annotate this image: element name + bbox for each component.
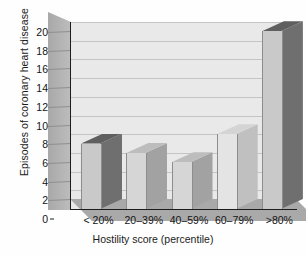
wall-gridline bbox=[48, 199, 71, 201]
bar-side-face bbox=[281, 21, 303, 209]
wall-gridline bbox=[48, 106, 71, 108]
y-tick-label: 10 bbox=[36, 120, 48, 132]
y-axis-line bbox=[70, 22, 71, 210]
bar-2 bbox=[126, 143, 167, 209]
y-tick-label: 14 bbox=[36, 82, 48, 94]
coronary-heart-disease-bar-chart: Episodes of coronary heart disease 02468… bbox=[0, 0, 306, 256]
y-tick-label: 18 bbox=[36, 45, 48, 57]
left-wall-3d bbox=[48, 12, 71, 210]
x-tick-label-2: 20–39% bbox=[125, 214, 164, 226]
bar-side-face bbox=[191, 152, 213, 209]
bar-front-face bbox=[126, 153, 147, 209]
bar-3 bbox=[172, 152, 213, 209]
wall-gridline bbox=[48, 143, 71, 145]
bar-front-face bbox=[172, 162, 193, 209]
x-axis-tick-labels: < 20%20–39%40–59%60–79%>80% bbox=[48, 214, 298, 230]
y-tick-label: 12 bbox=[36, 101, 48, 113]
x-tick-label-3: 40–59% bbox=[170, 214, 209, 226]
bar-front-face bbox=[217, 134, 238, 209]
bar-5 bbox=[262, 21, 303, 209]
bar-1 bbox=[81, 134, 122, 209]
bar-side-face bbox=[145, 143, 167, 209]
wall-gridline bbox=[48, 181, 71, 183]
bar-4 bbox=[217, 124, 258, 209]
x-tick-label-5: >80% bbox=[266, 214, 293, 226]
bar-front-face bbox=[81, 144, 102, 209]
x-tick-label-4: 60–79% bbox=[215, 214, 254, 226]
chart-plot-area bbox=[48, 12, 296, 212]
wall-gridline bbox=[48, 31, 71, 33]
bar-side-face bbox=[236, 124, 258, 209]
wall-gridline bbox=[48, 87, 71, 89]
bar-side-face bbox=[100, 134, 122, 209]
wall-gridline bbox=[48, 162, 71, 164]
wall-gridline bbox=[48, 68, 71, 70]
wall-gridline bbox=[48, 50, 71, 52]
y-tick-label: 20 bbox=[36, 26, 48, 38]
y-tick-label: 16 bbox=[36, 63, 48, 75]
bar-front-face bbox=[262, 31, 283, 209]
y-axis-tick-labels: 02468101214161820 bbox=[26, 16, 48, 203]
x-axis-line bbox=[70, 209, 297, 210]
wall-gridline bbox=[48, 124, 71, 126]
x-tick-label-1: < 20% bbox=[84, 214, 114, 226]
x-axis-title: Hostility score (percentile) bbox=[0, 233, 306, 245]
